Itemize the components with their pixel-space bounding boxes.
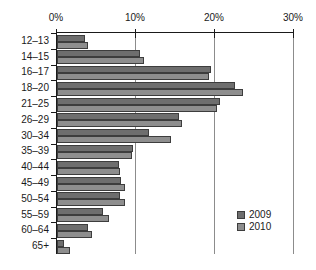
bar-row: 65+	[56, 238, 293, 254]
bar-2010	[57, 247, 70, 254]
y-tick-mark	[51, 238, 56, 239]
bar-row: 50–54	[56, 191, 293, 207]
bar-2009	[57, 192, 120, 199]
y-axis-category-label: 50–54	[21, 193, 49, 204]
legend-label: 2010	[249, 221, 271, 233]
bar-2009	[57, 66, 211, 73]
x-tick-label: 0%	[49, 12, 63, 23]
bar-2010	[57, 42, 88, 49]
x-tick-label: 10%	[125, 12, 145, 23]
bar-2010	[57, 105, 217, 112]
x-tick-label: 20%	[204, 12, 224, 23]
bar-row: 12–13	[56, 33, 293, 49]
gridline-30	[293, 33, 294, 254]
legend-item-2010: 2010	[237, 221, 271, 233]
y-axis-category-label: 12–13	[21, 35, 49, 46]
y-axis-category-label: 26–29	[21, 114, 49, 125]
y-axis-category-label: 18–20	[21, 82, 49, 93]
bar-2010	[57, 136, 171, 143]
y-axis-category-label: 30–34	[21, 130, 49, 141]
bar-row: 40–44	[56, 159, 293, 175]
y-axis-category-label: 65+	[32, 240, 49, 251]
bar-row: 16–17	[56, 65, 293, 81]
bar-2009	[57, 161, 119, 168]
bar-row: 26–29	[56, 112, 293, 128]
x-tick-label: 30%	[283, 12, 303, 23]
y-axis-category-label: 60–64	[21, 224, 49, 235]
bar-row: 18–20	[56, 80, 293, 96]
bar-2010	[57, 152, 132, 159]
bar-2009	[57, 98, 220, 105]
bar-2010	[57, 231, 92, 238]
bar-2009	[57, 35, 85, 42]
y-axis-category-label: 45–49	[21, 177, 49, 188]
bar-2010	[57, 199, 125, 206]
y-axis-category-label: 21–25	[21, 98, 49, 109]
bar-chart: 0%10%20%30% 12–1314–1516–1718–2021–2526–…	[0, 0, 316, 270]
bar-row: 21–25	[56, 96, 293, 112]
y-tick-mark	[51, 96, 56, 97]
y-tick-mark	[51, 207, 56, 208]
legend-swatch-icon	[237, 223, 245, 231]
bar-2010	[57, 168, 120, 175]
bar-2009	[57, 145, 133, 152]
y-tick-mark	[51, 191, 56, 192]
bar-2010	[57, 120, 182, 127]
bar-2009	[57, 240, 64, 247]
bar-2009	[57, 129, 149, 136]
bar-2009	[57, 208, 103, 215]
bar-2009	[57, 82, 235, 89]
y-tick-mark	[51, 144, 56, 145]
bar-2009	[57, 50, 140, 57]
bar-row: 45–49	[56, 175, 293, 191]
x-tick-mark	[293, 29, 294, 38]
y-tick-mark	[51, 175, 56, 176]
y-axis-category-label: 14–15	[21, 51, 49, 62]
y-tick-mark	[51, 80, 56, 81]
y-tick-mark	[51, 33, 56, 34]
legend-label: 2009	[249, 209, 271, 221]
bar-2009	[57, 113, 179, 120]
y-axis-category-label: 35–39	[21, 145, 49, 156]
bar-row: 30–34	[56, 128, 293, 144]
bar-2010	[57, 57, 144, 64]
y-tick-mark	[51, 159, 56, 160]
bar-row: 35–39	[56, 144, 293, 160]
bar-2009	[57, 177, 121, 184]
bar-row: 14–15	[56, 49, 293, 65]
y-axis-category-label: 55–59	[21, 209, 49, 220]
y-tick-mark	[51, 49, 56, 50]
bar-2010	[57, 73, 209, 80]
y-tick-mark	[51, 112, 56, 113]
legend-swatch-icon	[237, 211, 245, 219]
bar-2010	[57, 89, 243, 96]
y-axis-category-label: 40–44	[21, 161, 49, 172]
bar-2010	[57, 184, 125, 191]
chart-legend: 2009 2010	[237, 209, 271, 233]
bar-2010	[57, 215, 109, 222]
y-tick-mark	[51, 128, 56, 129]
bar-2009	[57, 224, 88, 231]
legend-item-2009: 2009	[237, 209, 271, 221]
y-axis-category-label: 16–17	[21, 66, 49, 77]
y-tick-mark	[51, 222, 56, 223]
y-tick-mark	[51, 65, 56, 66]
